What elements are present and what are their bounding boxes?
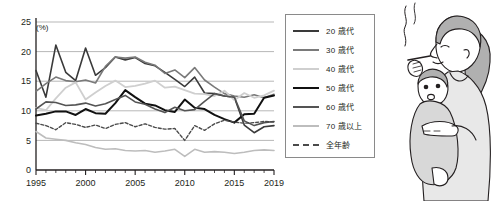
smoke-wisp-icon (414, 3, 415, 24)
legend-label: 20 歳代 (326, 25, 354, 36)
x-axis-labels: 199520002005201020152019 (26, 178, 284, 188)
figure-root: 0510152025 199520002005201020152019 (%) … (0, 0, 498, 201)
child-eye (436, 84, 441, 89)
x-tick-label: 1995 (26, 178, 46, 188)
child-eye (424, 85, 429, 90)
legend-item-1[interactable]: 30 歳代 (286, 40, 374, 59)
legend-label: 60 歳代 (326, 101, 354, 112)
legend-item-3[interactable]: 50 歳代 (286, 78, 374, 97)
line-chart: 0510152025 199520002005201020152019 (%) (0, 0, 285, 201)
x-tick-label: 2000 (76, 178, 96, 188)
x-axis-ticks (36, 170, 274, 175)
woman-hand (408, 60, 423, 76)
series-line-6 (36, 120, 274, 140)
legend-item-0[interactable]: 20 歳代 (286, 21, 374, 40)
data-series-group (36, 45, 274, 156)
illustration-woman-smoking-holding-child (396, 0, 498, 201)
legend-item-5[interactable]: 70 歳以上 (286, 116, 374, 135)
y-tick-label: 25 (21, 17, 31, 27)
legend-item-4[interactable]: 60 歳代 (286, 97, 374, 116)
x-tick-label: 2015 (224, 178, 244, 188)
y-tick-label: 10 (21, 106, 31, 116)
legend-item-2[interactable]: 40 歳代 (286, 59, 374, 78)
child-arm (422, 122, 458, 137)
legend-label: 30 歳代 (326, 44, 354, 55)
y-axis-labels: 0510152025 (21, 17, 31, 175)
y-tick-label: 20 (21, 47, 31, 57)
chart-legend: 20 歳代30 歳代40 歳代50 歳代60 歳代70 歳以上全年齢 (285, 14, 375, 158)
legend-swatch-icon (293, 106, 319, 108)
x-tick-label: 2005 (125, 178, 145, 188)
legend-label: 全年齢 (326, 139, 351, 150)
axes (36, 18, 274, 170)
series-line-5 (36, 132, 274, 157)
legend-swatch-icon (293, 30, 319, 32)
cigarette-icon (408, 56, 430, 60)
legend-swatch-icon (293, 68, 319, 70)
y-tick-label: 15 (21, 76, 31, 86)
legend-label: 50 歳代 (326, 82, 354, 93)
x-tick-label: 2010 (175, 178, 195, 188)
legend-label: 40 歳代 (326, 63, 354, 74)
child-mouth (428, 94, 435, 99)
smoke-wisp-icon (404, 6, 406, 46)
y-axis-unit-label: (%) (36, 23, 49, 32)
y-tick-label: 0 (26, 165, 31, 175)
legend-swatch-icon (293, 125, 319, 127)
legend-swatch-icon (293, 49, 319, 51)
legend-swatch-icon (293, 87, 319, 89)
chart-canvas: 0510152025 199520002005201020152019 (%) (0, 0, 285, 201)
x-tick-label: 2019 (264, 178, 284, 188)
legend-swatch-icon (293, 144, 319, 146)
y-tick-label: 5 (26, 136, 31, 146)
legend-label: 70 歳以上 (326, 120, 362, 131)
legend-item-6[interactable]: 全年齢 (286, 135, 374, 154)
